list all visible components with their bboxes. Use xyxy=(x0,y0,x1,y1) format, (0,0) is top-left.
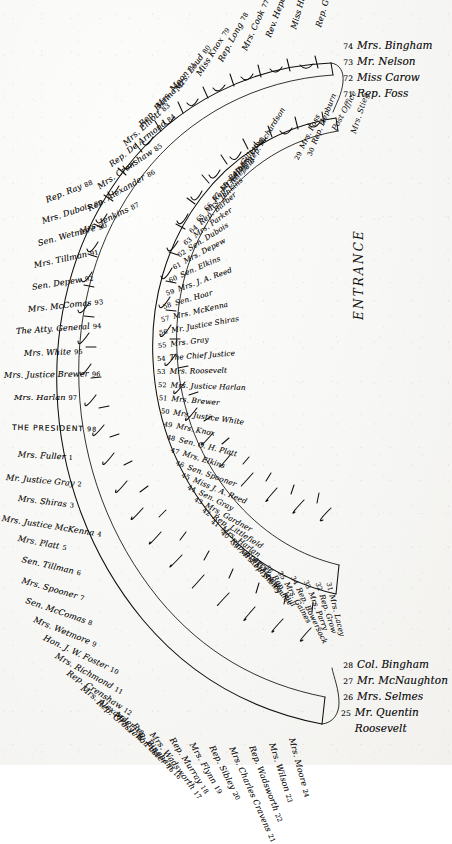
outer-table-cap-top xyxy=(331,63,333,75)
outer-table-cap-bottom xyxy=(322,697,325,724)
legend-seat-name: Col. Bingham xyxy=(357,657,429,673)
legend-row[interactable]: 73Mr. Nelson xyxy=(341,54,432,70)
legend-bottom: 28Col. Bingham 27Mr. McNaughton 26Mrs. S… xyxy=(341,657,452,737)
outer-seat-ticks xyxy=(84,56,318,612)
inner-seat-label[interactable]: 53Mrs. Roosevelt xyxy=(157,366,227,376)
inner-table-cap-bottom xyxy=(336,565,339,594)
entrance-label: ENTRANCE xyxy=(352,229,366,320)
seat-label-president[interactable]: THE PRESIDENT98 xyxy=(12,423,97,433)
seat-label[interactable]: Mrs. White95 xyxy=(24,346,83,358)
seat-label[interactable]: Mrs. Justice Brewer96 xyxy=(4,368,101,380)
legend-seat-number: 72 xyxy=(341,73,353,85)
legend-seat-name: Mrs. Bingham xyxy=(357,38,432,54)
legend-seat-name: Mrs. Selmes xyxy=(357,689,423,705)
legend-row[interactable]: 25Mr. Quentin Roosevelt xyxy=(341,705,452,737)
legend-seat-number: 28 xyxy=(341,660,353,672)
legend-seat-number: 73 xyxy=(341,57,353,69)
legend-row[interactable]: 72Miss Carow xyxy=(341,70,432,86)
legend-row[interactable]: 27Mr. McNaughton xyxy=(341,673,452,689)
legend-seat-number: 25 xyxy=(341,708,351,720)
seat-label[interactable]: Mrs. Harlan97 xyxy=(14,392,77,402)
legend-seat-number: 27 xyxy=(341,676,353,688)
legend-seat-number: 74 xyxy=(341,41,353,53)
legend-seat-number: 26 xyxy=(341,692,353,704)
legend-row[interactable]: 26Mrs. Selmes xyxy=(341,689,452,705)
legend-seat-name: Mr. Quentin Roosevelt xyxy=(355,705,452,737)
legend-row[interactable]: 74Mrs. Bingham xyxy=(341,38,432,54)
legend-seat-name: Mr. McNaughton xyxy=(357,673,448,689)
legend-bottom-leader xyxy=(322,668,339,724)
legend-seat-name: Mr. Nelson xyxy=(357,54,416,70)
legend-row[interactable]: 28Col. Bingham xyxy=(341,657,452,673)
legend-seat-name: Miss Carow xyxy=(357,70,420,86)
